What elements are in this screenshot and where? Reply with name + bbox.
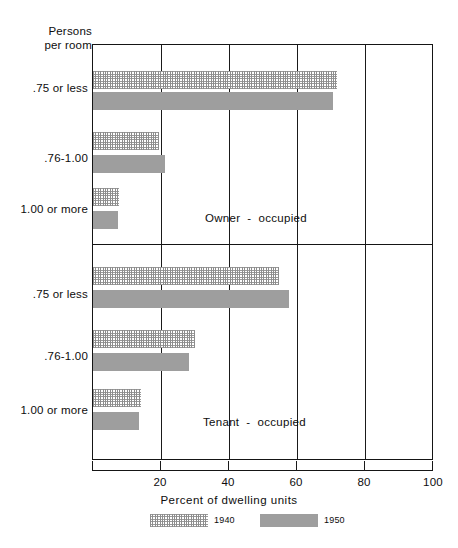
bar-owner-076-1940 [93,132,159,150]
gridline-80 [365,45,366,459]
x-tick-label-100: 100 [423,476,443,488]
x-tick-20 [160,461,161,471]
legend-label-1940: 1940 [214,515,235,525]
bar-tenant-100-1950 [93,412,139,430]
category-label-owner-075: .75 or less [2,82,88,94]
x-tick-label-80: 80 [357,476,370,488]
category-label-owner-100: 1.00 or more [2,203,88,215]
y-axis-title-line2: per room [18,38,92,52]
y-axis-title: Persons per room [18,24,92,52]
legend-swatch-1950-icon [260,514,318,527]
category-label-tenant-100: 1.00 or more [2,404,88,416]
bar-owner-075-1950 [93,92,333,110]
x-axis-cap-right [432,461,433,471]
panel-caption-tenant: Tenant - occupied [203,416,306,428]
panel-divider [93,244,432,245]
x-axis-label: Percent of dwelling units [0,494,458,506]
x-axis-cap-left [92,461,93,471]
bar-tenant-075-1950 [93,290,289,308]
x-tick-80 [364,461,365,471]
x-axis-line [92,470,433,471]
bar-tenant-075-1940 [93,267,279,285]
chart-container: Persons per room .75 or less .76-1.00 1.… [0,0,458,548]
bar-tenant-076-1940 [93,330,195,348]
legend-swatch-1940-icon [150,514,208,527]
x-tick-60 [296,461,297,471]
panel-caption-owner: Owner - occupied [205,212,307,224]
bar-owner-100-1950 [93,211,118,229]
y-axis-title-line1: Persons [18,24,92,38]
category-label-owner-076: .76-1.00 [2,152,88,164]
legend: 1940 1950 [0,514,458,532]
bar-owner-075-1940 [93,71,337,89]
x-tick-label-40: 40 [221,476,234,488]
category-label-tenant-076: .76-1.00 [2,350,88,362]
x-tick-40 [228,461,229,471]
legend-label-1950: 1950 [324,515,345,525]
bar-tenant-100-1940 [93,389,141,407]
plot-area: Owner - occupied Tenant - occupied [92,44,433,460]
bar-tenant-076-1950 [93,353,189,371]
x-tick-label-20: 20 [153,476,166,488]
bar-owner-100-1940 [93,188,119,206]
bar-owner-076-1950 [93,155,165,173]
x-tick-label-60: 60 [289,476,302,488]
category-label-tenant-075: .75 or less [2,288,88,300]
